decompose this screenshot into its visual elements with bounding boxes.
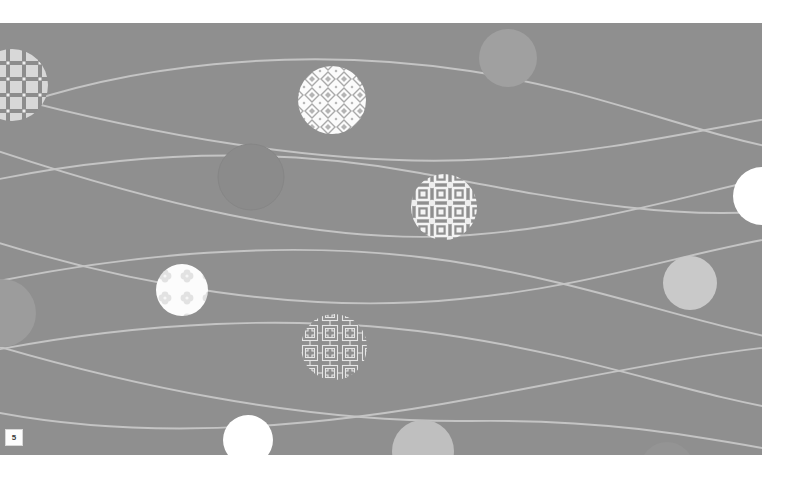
page-number-label: 5 [12, 434, 16, 442]
solid-circle-outline-mid-left [218, 144, 284, 210]
pattern-circle-square-floral [411, 174, 477, 240]
solid-circle-right-light [663, 256, 717, 310]
pattern-circle-fretwork [301, 314, 367, 380]
slide-background [0, 23, 762, 455]
pattern-circle-diamond [298, 66, 366, 134]
solid-circle-top-right [479, 29, 537, 87]
slide-canvas [0, 23, 762, 455]
pattern-circle-quatrefoil [156, 264, 208, 316]
page-number-badge: 5 [5, 429, 23, 446]
slide-viewport: 5 [0, 0, 796, 484]
slide-graphic [0, 23, 762, 455]
